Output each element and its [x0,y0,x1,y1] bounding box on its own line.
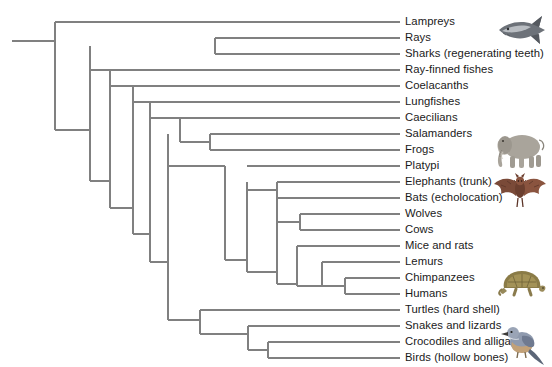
taxon-label-mice[interactable]: Mice and rats [405,240,473,251]
taxon-label-frogs[interactable]: Frogs [405,144,434,155]
taxon-label-coelacanths[interactable]: Coelacanths [405,80,468,91]
bat-illustration [492,172,548,212]
turtle-illustration [496,262,548,304]
taxon-label-rayfinned[interactable]: Ray-finned fishes [405,64,493,75]
taxon-label-turtles[interactable]: Turtles (hard shell) [405,304,500,315]
taxon-label-bats[interactable]: Bats (echolocation) [405,192,503,203]
taxon-label-caecilians[interactable]: Caecilians [405,112,458,123]
phylogenetic-tree-figure: LampreysRaysSharks (regenerating teeth)R… [0,0,552,367]
taxon-label-humans[interactable]: Humans [405,288,447,299]
elephant-illustration [492,128,548,170]
taxon-label-snakes[interactable]: Snakes and lizards [405,320,501,331]
taxon-label-lampreys[interactable]: Lampreys [405,16,455,27]
taxon-label-rays[interactable]: Rays [405,32,431,43]
taxon-label-chimps[interactable]: Chimpanzees [405,272,475,283]
taxon-label-cows[interactable]: Cows [405,224,433,235]
taxon-label-wolves[interactable]: Wolves [405,208,442,219]
taxon-label-lemurs[interactable]: Lemurs [405,256,443,267]
taxon-label-platypi[interactable]: Platypi [405,160,439,171]
taxon-label-salamanders[interactable]: Salamanders [405,128,472,139]
taxon-label-elephants[interactable]: Elephants (trunk) [405,176,492,187]
taxon-label-lungfishes[interactable]: Lungfishes [405,96,460,107]
shark-illustration [496,10,548,52]
bird-illustration [500,322,548,366]
taxon-label-birds[interactable]: Birds (hollow bones) [405,352,508,363]
